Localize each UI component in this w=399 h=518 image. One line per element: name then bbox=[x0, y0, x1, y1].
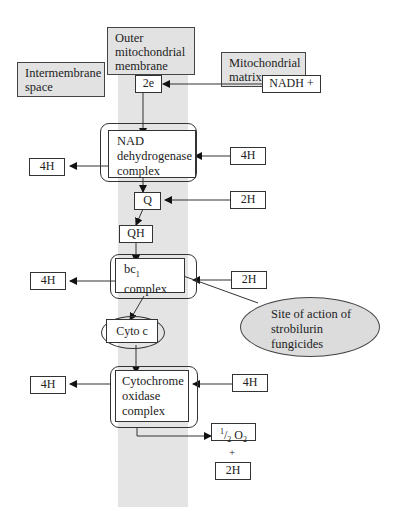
cytochrome-c: Cyto c bbox=[106, 319, 158, 343]
nadh-box: NADH + bbox=[262, 75, 321, 93]
ubiquinone-q-box: Q bbox=[134, 192, 161, 210]
half-oxygen-box: 1/2 O2 bbox=[211, 423, 256, 441]
proton-2h-right-bc1: 2H bbox=[231, 271, 267, 289]
proton-4h-left-bc1: 4H bbox=[30, 272, 66, 290]
proton-2h-right-q: 2H bbox=[230, 191, 266, 209]
proton-4h-right-nad: 4H bbox=[230, 147, 266, 165]
strobilurin-site-callout: Site of action of strobilurin fungicides bbox=[240, 297, 380, 357]
ubiquinol-qh-box: QH bbox=[119, 225, 153, 243]
connector-arrows bbox=[0, 0, 399, 518]
proton-4h-right-cox: 4H bbox=[232, 374, 268, 392]
cytochrome-oxidase-complex: Cytochrome oxidase complex bbox=[115, 370, 189, 422]
proton-4h-left-nad: 4H bbox=[29, 158, 65, 176]
proton-4h-left-cox: 4H bbox=[30, 376, 66, 394]
water-2h-box: 2H bbox=[215, 462, 251, 480]
plus-sign: + bbox=[222, 446, 242, 458]
nad-dehydrogenase-complex: NAD dehydrogenase complex bbox=[108, 130, 196, 178]
bc1-complex: bc1 complex bbox=[115, 258, 185, 293]
electrons-2e-box: 2e bbox=[135, 75, 162, 93]
